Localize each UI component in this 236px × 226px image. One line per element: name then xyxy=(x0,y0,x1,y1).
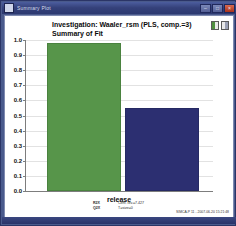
y-tick xyxy=(23,161,26,162)
footer-timestamp: SIMCA-P 11 - 2007-06-20 15:21:48 xyxy=(176,210,229,214)
y-tick xyxy=(23,100,26,101)
y-tick xyxy=(23,85,26,86)
plot-header: Investigation: Waaler_rsm (PLS, comp.=3)… xyxy=(5,18,233,40)
window-title-bar[interactable]: Summary Plot – □ × xyxy=(2,2,236,14)
y-tick-label: 0.2 xyxy=(14,158,22,164)
window-status-bar xyxy=(2,217,236,224)
maximize-icon[interactable]: □ xyxy=(212,4,223,13)
minimize-icon[interactable]: – xyxy=(200,4,211,13)
plot-area: 1.00.90.80.70.60.50.40.30.20.10.0 releas… xyxy=(25,40,213,192)
gridline xyxy=(25,40,213,41)
y-tick xyxy=(23,40,26,41)
y-tick-label: 1.0 xyxy=(14,37,22,43)
y-tick-label: 0.8 xyxy=(14,67,22,73)
legend-icon-group[interactable] xyxy=(211,21,229,30)
footer-value-q2: T=size=0 xyxy=(118,206,133,210)
y-tick xyxy=(23,191,26,192)
y-tick xyxy=(23,55,26,56)
y-tick-label: 0.3 xyxy=(14,143,22,149)
y-tick xyxy=(23,116,26,117)
y-tick-label: 0.1 xyxy=(14,173,22,179)
bar-q2[interactable] xyxy=(125,108,199,191)
y-tick-label: 0.7 xyxy=(14,82,22,88)
plot-footer: R2X Q2X Cent. lev.=7.427 T=size=0 SIMCA-… xyxy=(5,201,233,217)
q2-legend-icon[interactable] xyxy=(221,21,229,30)
chart-subtitle: Summary of Fit xyxy=(52,30,103,37)
plot-canvas[interactable]: Investigation: Waaler_rsm (PLS, comp.=3)… xyxy=(4,15,234,218)
x-axis xyxy=(25,191,213,192)
y-tick xyxy=(23,146,26,147)
y-tick xyxy=(23,131,26,132)
footer-key-r2: R2X xyxy=(93,201,100,205)
r2-legend-icon[interactable] xyxy=(211,21,219,30)
bar-r2[interactable] xyxy=(47,43,121,191)
y-tick-label: 0.9 xyxy=(14,52,22,58)
footer-value-r2: Cent. lev.=7.427 xyxy=(118,201,144,205)
footer-key-q2: Q2X xyxy=(93,206,100,210)
window-title: Summary Plot xyxy=(17,5,199,11)
y-tick xyxy=(23,176,26,177)
close-icon[interactable]: × xyxy=(224,4,235,13)
summary-plot-window: Summary Plot – □ × Investigation: Waaler… xyxy=(0,0,236,226)
chart-title: Investigation: Waaler_rsm (PLS, comp.=3) xyxy=(52,21,192,28)
y-tick-label: 0.4 xyxy=(14,128,22,134)
y-tick xyxy=(23,70,26,71)
plot-window-icon xyxy=(4,3,14,13)
y-tick-label: 0.5 xyxy=(14,113,22,119)
y-tick-label: 0.6 xyxy=(14,97,22,103)
y-tick-label: 0.0 xyxy=(14,188,22,194)
